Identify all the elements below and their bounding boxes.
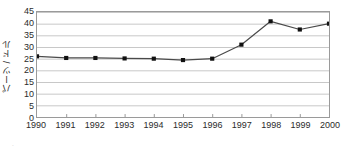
scan-edge-artifact: – · – [6,142,52,146]
y-axis-tick-label: 5 [12,102,34,111]
data-point-marker [123,56,127,60]
y-axis-tick-label: 45 [12,7,34,16]
data-point-marker [269,19,273,23]
y-axis-tick-label: 20 [12,66,34,75]
x-axis-tick-labels: 1990199119921993199419951996199719981999… [36,120,330,136]
plot-svg [37,12,329,117]
y-axis-tick-label: 35 [12,30,34,39]
data-point-marker [239,43,243,47]
data-point-marker [93,56,97,60]
y-axis-tick-label: 40 [12,18,34,27]
data-point-marker [298,27,302,31]
y-axis-tick-label: 10 [12,90,34,99]
data-point-marker [327,22,329,26]
data-point-marker [152,57,156,61]
plot-area [36,11,330,118]
series-line [37,21,329,60]
data-point-marker [210,57,214,61]
y-axis-tick-label: 30 [12,42,34,51]
data-point-marker [181,58,185,62]
y-axis-tick-label: 15 [12,78,34,87]
y-axis-tick-label: 25 [12,54,34,63]
x-axis-tick-label: 2000 [310,120,345,130]
data-point-marker [64,56,68,60]
data-point-marker [37,54,39,58]
